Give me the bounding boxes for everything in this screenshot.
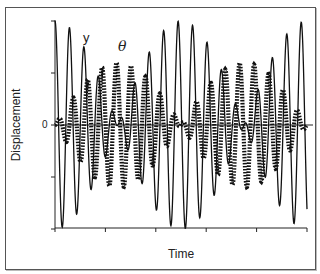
series-label-y: y [83,30,90,45]
series-label-theta: θ [118,38,126,54]
plot-area [0,0,320,274]
y-tick-label-zero: 0 [42,119,48,130]
y-axis-label: Displacement [9,89,23,162]
x-axis-label: Time [168,247,194,261]
